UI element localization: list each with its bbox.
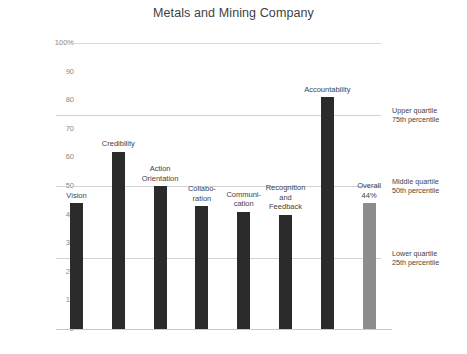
bar [279, 215, 292, 329]
bar-category-label: Vision [48, 191, 106, 201]
axis-baseline [56, 329, 392, 330]
bar-category-label: Overall44% [340, 181, 398, 200]
chart-container: Metals and Mining Company 100%9080706050… [0, 0, 467, 354]
bar-category-label: Recognition and Feedback [257, 183, 315, 212]
bar [70, 203, 83, 329]
bar-category-label: Accountability [298, 85, 356, 95]
bar [195, 206, 208, 329]
quartile-note-title: Upper quartile [392, 106, 467, 115]
chart-title: Metals and Mining Company [0, 6, 467, 20]
quartile-note-title: Lower quartile [392, 249, 467, 258]
bar-category-label: Credibility [89, 139, 147, 149]
bar [154, 186, 167, 329]
bar-category-label: Action Orientation [131, 164, 189, 183]
bar-value-label: 44% [340, 191, 398, 201]
bar [112, 152, 125, 329]
quartile-note-75: Upper quartile75th percentile [392, 106, 467, 124]
quartile-note-percentile: 75th percentile [392, 115, 467, 124]
bar [363, 203, 376, 329]
quartile-note-25: Lower quartile25th percentile [392, 249, 467, 267]
quartile-note-title: Middle quartile [392, 177, 467, 186]
quartile-note-50: Middle quartile50th percentile [392, 177, 467, 195]
bar [321, 97, 334, 329]
gridline-100 [56, 43, 381, 44]
quartile-note-percentile: 25th percentile [392, 258, 467, 267]
bar [237, 212, 250, 329]
quartile-note-percentile: 50th percentile [392, 186, 467, 195]
